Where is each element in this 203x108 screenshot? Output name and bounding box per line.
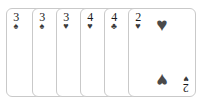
heart-pip: ♥ <box>152 15 172 34</box>
card-corner-index-inverted: 2 ♥ <box>180 74 192 94</box>
heart-icon: ♥ <box>180 74 192 83</box>
card-corner-index: 4 ♣ <box>108 11 120 31</box>
spade-icon: ♠ <box>10 22 22 31</box>
card-corner-index: 2 ♥ <box>132 11 144 31</box>
club-icon: ♣ <box>108 22 120 31</box>
heart-icon: ♥ <box>132 22 144 31</box>
card-corner-index: 4 ♥ <box>84 11 96 31</box>
spade-icon: ♠ <box>36 22 48 31</box>
playing-card[interactable]: 2 ♥ ♥ ♥ 2 ♥ <box>128 8 196 97</box>
card-hand: 3 ♠ 3 ♠ 3 ♥ 4 ♥ ♥ ♥ 4 ♣ ♣ ♣ 2 ♥ <box>0 0 203 108</box>
card-corner-index: 3 ♥ <box>60 11 72 31</box>
heart-icon: ♥ <box>60 22 72 31</box>
card-corner-index: 3 ♠ <box>36 11 48 31</box>
heart-pip: ♥ <box>152 71 172 90</box>
card-corner-index: 3 ♠ <box>10 11 22 31</box>
heart-icon: ♥ <box>84 22 96 31</box>
